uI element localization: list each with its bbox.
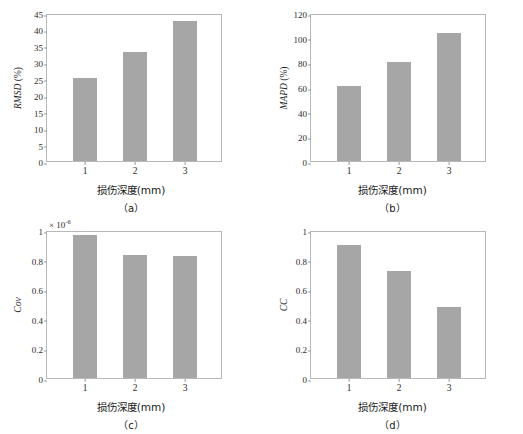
plot-area-a: 051015202530354045123 bbox=[46, 14, 222, 162]
y-tick-label: 1 bbox=[39, 228, 44, 237]
y-tick-mark bbox=[44, 350, 47, 351]
y-axis-label-d: CC bbox=[279, 299, 289, 312]
y-tick-mark bbox=[44, 114, 47, 115]
bar bbox=[173, 21, 197, 161]
figure-multi-panel-bar-charts: 051015202530354045123 RMSD (%) 损伤深度(mm) … bbox=[0, 0, 523, 434]
y-tick-label: 80 bbox=[298, 60, 307, 69]
x-tick-label: 2 bbox=[133, 166, 138, 176]
x-tick-label: 2 bbox=[397, 383, 402, 393]
panel-caption-a: （a） bbox=[0, 200, 262, 215]
bar bbox=[337, 86, 361, 161]
x-axis-label-b: 损伤深度(mm) bbox=[262, 182, 523, 197]
y-tick-label: 10 bbox=[34, 126, 43, 135]
panel-a: 051015202530354045123 RMSD (%) 损伤深度(mm) … bbox=[0, 0, 262, 217]
y-tick-mark bbox=[44, 147, 47, 148]
x-tick-mark bbox=[349, 379, 350, 382]
y-tick-mark bbox=[308, 15, 311, 16]
y-tick-mark bbox=[308, 321, 311, 322]
y-axis-label-c: Cov bbox=[13, 297, 23, 312]
y-tick-mark bbox=[308, 262, 311, 263]
x-tick-label: 3 bbox=[183, 166, 188, 176]
panel-d: 00.20.40.60.81123 CC 损伤深度(mm) （d） bbox=[262, 217, 523, 434]
x-tick-mark bbox=[399, 379, 400, 382]
y-tick-mark bbox=[44, 262, 47, 263]
x-tick-mark bbox=[85, 379, 86, 382]
y-tick-label: 0 bbox=[39, 376, 44, 385]
y-tick-mark bbox=[308, 114, 311, 115]
y-tick-mark bbox=[44, 31, 47, 32]
x-tick-mark bbox=[349, 162, 350, 165]
y-tick-mark bbox=[308, 40, 311, 41]
y-tick-label: 0.8 bbox=[32, 257, 43, 266]
x-tick-label: 3 bbox=[183, 383, 188, 393]
y-tick-mark bbox=[308, 89, 311, 90]
y-tick-mark bbox=[44, 130, 47, 131]
y-tick-label: 0 bbox=[303, 159, 308, 168]
x-tick-mark bbox=[449, 162, 450, 165]
y-tick-mark bbox=[308, 291, 311, 292]
y-tick-label: 0.4 bbox=[32, 316, 43, 325]
y-tick-mark bbox=[44, 48, 47, 49]
y-tick-mark bbox=[44, 64, 47, 65]
y-tick-mark bbox=[44, 291, 47, 292]
x-axis-label-d: 损伤深度(mm) bbox=[262, 399, 523, 414]
x-tick-mark bbox=[449, 379, 450, 382]
x-tick-mark bbox=[135, 162, 136, 165]
panel-b: 020406080100120123 MAPD (%) 损伤深度(mm) （b） bbox=[262, 0, 523, 217]
y-tick-mark bbox=[44, 232, 47, 233]
bar bbox=[73, 78, 97, 161]
x-tick-label: 3 bbox=[447, 166, 452, 176]
y-tick-label: 0.4 bbox=[296, 316, 307, 325]
bar bbox=[387, 271, 411, 378]
bar bbox=[73, 235, 97, 378]
plot-area-c: 00.20.40.60.81123 bbox=[46, 231, 222, 379]
x-tick-label: 2 bbox=[397, 166, 402, 176]
y-tick-label: 0.2 bbox=[296, 346, 307, 355]
y-tick-label: 45 bbox=[34, 11, 43, 20]
y-tick-label: 15 bbox=[34, 109, 43, 118]
x-tick-mark bbox=[135, 379, 136, 382]
panel-caption-c: （c） bbox=[0, 417, 262, 432]
y-tick-mark bbox=[308, 163, 311, 164]
y-tick-label: 20 bbox=[34, 93, 43, 102]
y-tick-mark bbox=[44, 81, 47, 82]
y-tick-mark bbox=[44, 380, 47, 381]
y-tick-label: 0.2 bbox=[32, 346, 43, 355]
y-tick-label: 0 bbox=[39, 159, 44, 168]
x-tick-label: 2 bbox=[133, 383, 138, 393]
y-tick-label: 0.6 bbox=[32, 287, 43, 296]
panel-caption-b: （b） bbox=[262, 200, 523, 215]
y-tick-label: 120 bbox=[294, 11, 308, 20]
y-tick-label: 20 bbox=[298, 134, 307, 143]
y-tick-mark bbox=[308, 232, 311, 233]
x-tick-mark bbox=[185, 162, 186, 165]
y-tick-mark bbox=[44, 15, 47, 16]
y-tick-label: 100 bbox=[294, 35, 308, 44]
y-tick-label: 40 bbox=[34, 27, 43, 36]
y-tick-label: 35 bbox=[34, 43, 43, 52]
bar bbox=[437, 33, 461, 161]
x-tick-label: 1 bbox=[83, 166, 88, 176]
y-tick-mark bbox=[44, 97, 47, 98]
y-tick-label: 0.8 bbox=[296, 257, 307, 266]
y-axis-label-a: RMSD (%) bbox=[13, 67, 23, 109]
y-tick-mark bbox=[308, 138, 311, 139]
x-tick-mark bbox=[185, 379, 186, 382]
y-tick-label: 60 bbox=[298, 85, 307, 94]
bar bbox=[387, 62, 411, 161]
y-tick-mark bbox=[44, 163, 47, 164]
panel-caption-d: （d） bbox=[262, 417, 523, 432]
y-tick-label: 1 bbox=[303, 228, 308, 237]
axis-exponent-c: × 10-6 bbox=[49, 221, 71, 230]
bar bbox=[123, 52, 147, 161]
y-tick-label: 0.6 bbox=[296, 287, 307, 296]
x-tick-label: 1 bbox=[347, 166, 352, 176]
y-axis-label-b: MAPD (%) bbox=[279, 66, 289, 109]
x-tick-label: 1 bbox=[83, 383, 88, 393]
x-tick-label: 3 bbox=[447, 383, 452, 393]
x-axis-label-a: 损伤深度(mm) bbox=[0, 182, 262, 197]
y-tick-mark bbox=[308, 350, 311, 351]
y-tick-label: 25 bbox=[34, 76, 43, 85]
x-tick-mark bbox=[85, 162, 86, 165]
y-tick-label: 40 bbox=[298, 109, 307, 118]
